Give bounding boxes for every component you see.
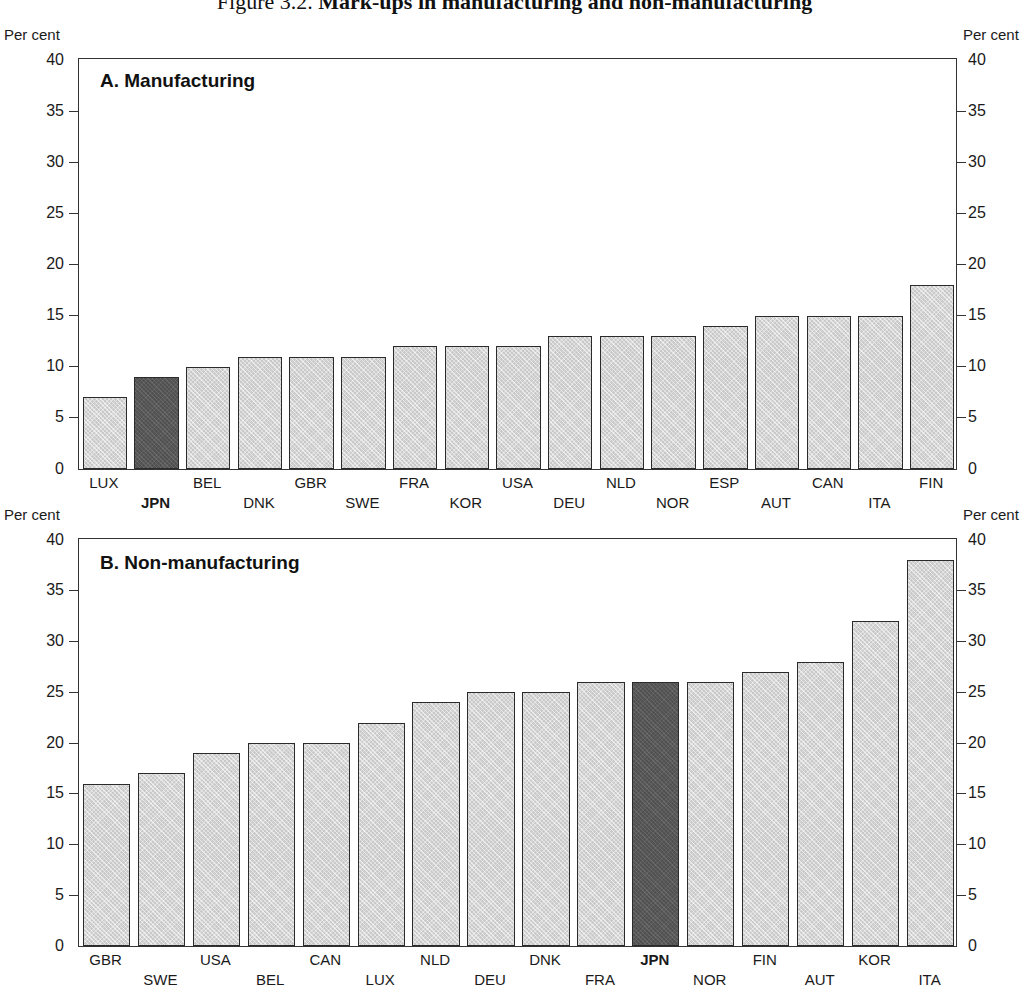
y-label-right-10: 10	[968, 358, 1004, 374]
bar-jpn	[134, 377, 178, 469]
y-label-right-30: 30	[968, 154, 1004, 170]
y-tick-right-25	[957, 692, 966, 693]
y-tick-left-10	[69, 844, 78, 845]
y-label-right-35: 35	[968, 103, 1004, 119]
bar-fin	[742, 672, 789, 946]
y-tick-right-10	[957, 844, 966, 845]
bar-esp	[703, 326, 747, 469]
y-label-left-5: 5	[28, 887, 64, 903]
y-label-right-15: 15	[968, 785, 1004, 801]
unit-label-left-a: Per cent	[4, 26, 60, 43]
y-tick-right-30	[957, 641, 966, 642]
x-label-fra: FRA	[585, 971, 615, 988]
x-label-lux: LUX	[89, 474, 118, 491]
y-tick-left-15	[69, 793, 78, 794]
y-label-left-30: 30	[28, 154, 64, 170]
bar-bel	[248, 743, 295, 946]
y-label-left-40: 40	[28, 52, 64, 68]
y-tick-left-5	[69, 417, 78, 418]
bar-group-manufacturing	[79, 59, 956, 469]
bar-ita	[858, 316, 902, 469]
y-tick-right-30	[957, 162, 966, 163]
x-label-deu: DEU	[474, 971, 506, 988]
bar-ita	[907, 560, 954, 946]
panel-manufacturing: Per cent Per cent A. Manufacturing 00551…	[0, 26, 1029, 511]
y-label-right-5: 5	[968, 887, 1004, 903]
x-label-can: CAN	[812, 474, 844, 491]
x-label-can: CAN	[309, 951, 341, 968]
y-label-left-40: 40	[28, 532, 64, 548]
x-label-esp: ESP	[709, 474, 739, 491]
y-tick-left-30	[69, 162, 78, 163]
unit-label-right-b: Per cent	[963, 506, 1019, 523]
bar-aut	[797, 662, 844, 946]
y-tick-right-15	[957, 793, 966, 794]
bar-nld	[412, 702, 459, 946]
bar-gbr	[83, 784, 130, 946]
x-label-dnk: DNK	[529, 951, 561, 968]
x-label-usa: USA	[502, 474, 533, 491]
x-axis-non-manufacturing: GBRSWEUSABELCANLUXNLDDEUDNKFRAJPNNORFINA…	[0, 947, 1029, 994]
y-tick-left-25	[69, 692, 78, 693]
y-label-left-25: 25	[28, 205, 64, 221]
x-label-swe: SWE	[143, 971, 177, 988]
bar-usa	[193, 753, 240, 946]
y-tick-right-35	[957, 111, 966, 112]
x-label-gbr: GBR	[294, 474, 327, 491]
x-label-fin: FIN	[753, 951, 777, 968]
bar-jpn	[632, 682, 679, 946]
bar-lux	[358, 723, 405, 946]
x-label-kor: KOR	[858, 951, 891, 968]
y-label-right-5: 5	[968, 409, 1004, 425]
y-label-left-15: 15	[28, 307, 64, 323]
bar-swe	[138, 773, 185, 946]
y-tick-left-5	[69, 895, 78, 896]
y-tick-right-15	[957, 315, 966, 316]
bar-can	[807, 316, 851, 469]
unit-label-right-a: Per cent	[963, 26, 1019, 43]
bar-nor	[651, 336, 695, 469]
bar-deu	[467, 692, 514, 946]
bar-fin	[910, 285, 954, 469]
y-label-right-15: 15	[968, 307, 1004, 323]
bar-dnk	[522, 692, 569, 946]
figure-number: Figure 3.2.	[217, 0, 313, 14]
y-label-left-35: 35	[28, 103, 64, 119]
y-label-left-15: 15	[28, 785, 64, 801]
y-label-left-20: 20	[28, 256, 64, 272]
y-label-left-10: 10	[28, 358, 64, 374]
y-label-right-35: 35	[968, 582, 1004, 598]
y-label-right-40: 40	[968, 532, 1004, 548]
y-tick-left-10	[69, 366, 78, 367]
bar-aut	[755, 316, 799, 469]
y-label-left-20: 20	[28, 735, 64, 751]
y-tick-right-5	[957, 417, 966, 418]
y-tick-right-10	[957, 366, 966, 367]
y-tick-right-5	[957, 895, 966, 896]
panel-non-manufacturing: Per cent Per cent B. Non-manufacturing 0…	[0, 506, 1029, 994]
bar-fra	[577, 682, 624, 946]
bar-lux	[83, 397, 127, 469]
bar-usa	[496, 346, 540, 469]
x-label-fra: FRA	[399, 474, 429, 491]
bar-gbr	[289, 357, 333, 469]
y-tick-right-25	[957, 213, 966, 214]
y-label-right-40: 40	[968, 52, 1004, 68]
unit-label-left-b: Per cent	[4, 506, 60, 523]
y-tick-left-20	[69, 264, 78, 265]
bar-can	[303, 743, 350, 946]
bar-dnk	[238, 357, 282, 469]
x-label-jpn: JPN	[640, 951, 669, 968]
bar-deu	[548, 336, 592, 469]
x-label-nor: NOR	[693, 971, 726, 988]
y-tick-left-20	[69, 743, 78, 744]
x-label-ita: ITA	[918, 971, 940, 988]
x-label-bel: BEL	[193, 474, 221, 491]
bar-kor	[445, 346, 489, 469]
y-label-right-10: 10	[968, 836, 1004, 852]
y-label-left-5: 5	[28, 409, 64, 425]
y-tick-left-35	[69, 111, 78, 112]
plot-area-manufacturing	[78, 58, 957, 470]
plot-area-non-manufacturing	[78, 538, 957, 947]
y-tick-right-20	[957, 264, 966, 265]
